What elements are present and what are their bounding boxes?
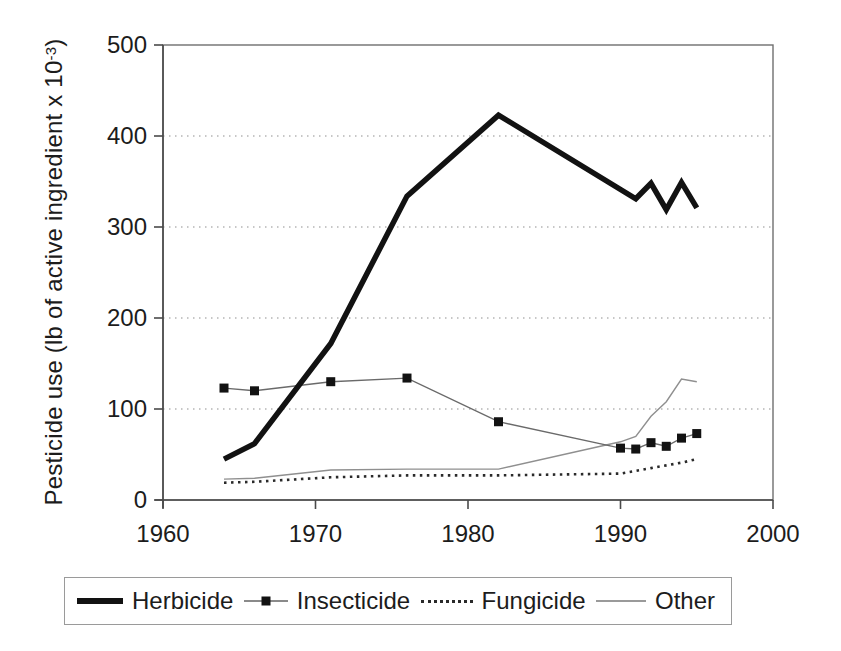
series-marker-insecticide [220,384,229,393]
legend-label-insecticide: Insecticide [297,587,410,615]
x-tick-label-1980: 1980 [441,520,494,547]
series-marker-insecticide [403,374,412,383]
x-tick-label-1970: 1970 [289,520,342,547]
x-tick-label-1990: 1990 [594,520,647,547]
series-marker-insecticide [692,429,701,438]
legend: Herbicide Insecticide Fungicide Other [64,577,732,625]
series-marker-insecticide [662,442,671,451]
y-axis-title-text: Pesticide use (lb of active ingredient x… [40,61,67,506]
series-marker-insecticide [494,417,503,426]
legend-label-other: Other [655,587,715,615]
y-axis-title: Pesticide use (lb of active ingredient x… [40,39,68,506]
legend-item-herbicide: Herbicide [77,587,233,615]
series-marker-insecticide [616,444,625,453]
y-axis-title-close: ) [40,39,67,47]
y-tick-label-200: 200 [107,304,147,331]
series-marker-insecticide [326,377,335,386]
y-tick-label-400: 400 [107,122,147,149]
series-marker-insecticide [631,445,640,454]
series-line-herbicide [224,115,697,459]
y-tick-label-500: 500 [107,31,147,58]
legend-label-fungicide: Fungicide [482,587,586,615]
y-tick-label-0: 0 [134,486,147,513]
other-line-swatch-icon [596,600,646,602]
series-marker-insecticide [647,438,656,447]
y-axis-title-exponent: -3 [42,47,59,61]
legend-item-other: Other [596,587,715,615]
herbicide-line-swatch-icon [77,598,123,604]
legend-item-fungicide: Fungicide [421,587,586,615]
x-tick-label-1960: 1960 [136,520,189,547]
fungicide-line-swatch-icon [421,600,473,603]
series-marker-insecticide [250,386,259,395]
pesticide-use-chart: 010020030040050019601970198019902000 [0,0,841,651]
series-marker-insecticide [677,434,686,443]
pesticide-use-figure: 010020030040050019601970198019902000 Pes… [0,0,841,651]
insecticide-line-swatch-icon [244,600,288,602]
legend-label-herbicide: Herbicide [132,587,233,615]
series-line-fungicide [224,459,697,483]
plot-frame [163,45,773,500]
y-tick-label-300: 300 [107,213,147,240]
legend-item-insecticide: Insecticide [244,587,410,615]
x-tick-label-2000: 2000 [746,520,799,547]
y-tick-label-100: 100 [107,395,147,422]
insecticide-marker-icon [261,597,270,606]
